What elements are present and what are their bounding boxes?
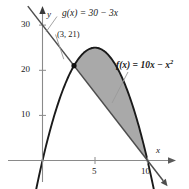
intersection-point-dot [71, 63, 76, 68]
curve-g-line [28, 6, 163, 181]
x-axis-arrowhead [168, 157, 176, 163]
f-function-label: f(x) = 10x − x2 [116, 61, 173, 71]
y-tick-label-20: 20 [21, 65, 30, 74]
x-tick-label-10: 10 [141, 167, 150, 176]
y-tick-label-30: 30 [21, 20, 30, 29]
x-tick-label-5: 5 [92, 167, 97, 176]
y-axis-label: y [47, 10, 51, 19]
y-axis-arrowhead [39, 6, 45, 14]
g-function-label: g(x) = 30 − 3x [62, 9, 118, 19]
y-tick-label-10: 10 [21, 110, 30, 119]
figure-area-between-curves: 30 20 10 5 10 y x g(x) = 30 − 3x (3, 21)… [0, 0, 189, 189]
intersection-point-label: (3, 21) [57, 30, 80, 39]
f-function-label-text: f(x) = 10x − x [116, 60, 170, 70]
x-axis-label: x [156, 146, 160, 155]
f-function-exponent: 2 [170, 58, 173, 65]
